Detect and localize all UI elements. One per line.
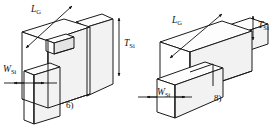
rear-slab-side-face xyxy=(87,19,113,96)
LG-label: LG xyxy=(30,4,41,15)
panel8-number-label: 8) xyxy=(214,93,222,103)
fin-front-face xyxy=(24,71,34,124)
fin-side-face xyxy=(34,67,60,124)
panel6-TSi-dimension: TSi xyxy=(119,18,135,76)
TSi-label: TSi xyxy=(124,38,135,49)
panel-6-group: LG TSi WSi 6) xyxy=(3,4,135,124)
panel6-number-label: 6) xyxy=(66,100,74,110)
LG-label: LG xyxy=(171,15,182,26)
diagram-canvas: LG TSi WSi 6) xyxy=(0,0,276,128)
panel-8-group: LG TSi WSi 8) xyxy=(138,14,269,118)
figure-container: LG TSi WSi 6) xyxy=(0,0,276,128)
WSi-label: WSi xyxy=(3,64,17,75)
panel6-front-fin xyxy=(24,63,60,124)
front-bar-end-face xyxy=(157,79,175,118)
TSi-label: TSi xyxy=(258,20,269,31)
notch-front-face xyxy=(46,40,54,54)
